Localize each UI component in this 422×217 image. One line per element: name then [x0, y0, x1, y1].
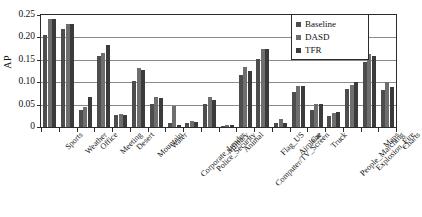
bar	[279, 119, 283, 127]
bar	[208, 97, 212, 127]
bar-group	[112, 15, 130, 127]
bar	[168, 123, 172, 127]
x-axis-tick-label: Sports	[64, 131, 85, 152]
legend-item-dasd: DASD	[296, 31, 364, 44]
bar	[225, 125, 229, 127]
legend-label: Baseline	[305, 20, 336, 29]
bar	[354, 82, 358, 127]
x-axis-tick-labels: SportsWeatherOfficeMeetingDesertMountain…	[41, 131, 396, 217]
y-axis-tick-label: 0	[30, 122, 35, 132]
bar-group	[201, 15, 219, 127]
bar-group	[378, 15, 396, 127]
bar	[190, 121, 194, 127]
bar	[83, 107, 87, 127]
y-axis-tick-label: 0.20	[18, 32, 35, 42]
bar	[301, 86, 305, 127]
legend-swatch-icon	[296, 22, 301, 27]
bar	[363, 62, 367, 127]
bar	[52, 19, 56, 127]
bar	[159, 98, 163, 127]
bar	[248, 71, 252, 127]
bar	[203, 104, 207, 127]
bar	[114, 115, 118, 127]
bar	[185, 123, 189, 127]
bar-group	[236, 15, 254, 127]
bar	[319, 104, 323, 127]
legend-item-baseline: Baseline	[296, 18, 364, 31]
bar	[332, 113, 336, 127]
y-axis-tick-label: 0.25	[18, 10, 35, 20]
bar	[79, 110, 83, 127]
bar	[265, 49, 269, 127]
bar	[150, 104, 154, 127]
bar-group	[254, 15, 272, 127]
bar	[296, 86, 300, 127]
y-axis-tick-label: 0.10	[18, 77, 35, 87]
bar	[172, 106, 176, 127]
bar-group	[41, 15, 59, 127]
bar	[177, 125, 181, 127]
y-axis-tick-label: 0.15	[18, 55, 35, 65]
bar	[274, 123, 278, 127]
bar	[66, 24, 70, 127]
bar-group	[219, 15, 237, 127]
bar	[292, 92, 296, 127]
bar	[70, 24, 74, 127]
bar	[88, 97, 92, 127]
y-axis-tick-labels: 0.250.200.150.100.050	[0, 0, 40, 142]
bar	[314, 104, 318, 127]
bar	[48, 19, 52, 127]
legend-swatch-icon	[296, 48, 301, 53]
bar	[336, 112, 340, 127]
bar	[239, 75, 243, 127]
bar-group	[94, 15, 112, 127]
bar	[43, 35, 47, 127]
bar	[154, 97, 158, 127]
bar	[141, 70, 145, 127]
bar	[385, 82, 389, 127]
bar	[367, 54, 371, 127]
bar	[194, 122, 198, 127]
legend: Baseline DASD TFR	[291, 14, 369, 60]
bar	[390, 87, 394, 127]
y-axis-tick-label: 0.05	[18, 100, 35, 110]
x-axis-tick-label: Truck	[330, 131, 350, 151]
legend-swatch-icon	[296, 35, 301, 40]
bar	[350, 85, 354, 127]
bar	[261, 49, 265, 127]
bar	[212, 100, 216, 127]
bar	[101, 53, 105, 127]
bar-group	[272, 15, 290, 127]
bar	[230, 125, 234, 127]
bar	[106, 45, 110, 127]
bar-group	[165, 15, 183, 127]
bar	[119, 114, 123, 127]
legend-item-tfr: TFR	[296, 44, 364, 57]
bar	[61, 29, 65, 127]
bar-group	[148, 15, 166, 127]
bar	[137, 68, 141, 127]
legend-label: TFR	[305, 46, 322, 55]
bar	[283, 123, 287, 127]
bar	[97, 56, 101, 127]
bar	[221, 126, 225, 127]
bar	[381, 90, 385, 127]
bar	[372, 56, 376, 127]
bar	[256, 59, 260, 127]
legend-label: DASD	[305, 33, 330, 42]
bar-group	[59, 15, 77, 127]
bar	[123, 115, 127, 127]
bar-group	[183, 15, 201, 127]
bar	[132, 81, 136, 127]
bar	[345, 89, 349, 127]
bar-group	[130, 15, 148, 127]
bar-group	[77, 15, 95, 127]
bar	[243, 67, 247, 127]
bar	[327, 116, 331, 127]
bar	[310, 110, 314, 127]
